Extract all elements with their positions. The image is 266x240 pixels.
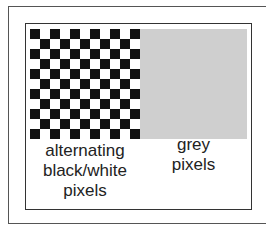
white-pixel xyxy=(70,79,80,89)
white-pixel xyxy=(80,29,90,39)
white-pixel xyxy=(40,69,50,79)
white-pixel xyxy=(120,89,130,99)
black-pixel xyxy=(40,119,50,129)
black-pixel xyxy=(90,129,100,139)
white-pixel xyxy=(100,89,110,99)
white-pixel xyxy=(130,119,140,129)
black-pixel xyxy=(30,49,40,59)
black-pixel xyxy=(50,69,60,79)
black-pixel xyxy=(130,89,140,99)
white-pixel xyxy=(50,119,60,129)
black-pixel xyxy=(30,109,40,119)
white-pixel xyxy=(80,129,90,139)
white-pixel xyxy=(110,39,120,49)
black-pixel xyxy=(90,49,100,59)
white-pixel xyxy=(100,29,110,39)
white-pixel xyxy=(40,29,50,39)
white-pixel xyxy=(60,109,70,119)
black-pixel xyxy=(80,39,90,49)
black-pixel xyxy=(80,119,90,129)
black-pixel xyxy=(30,129,40,139)
black-pixel xyxy=(100,99,110,109)
white-pixel xyxy=(110,79,120,89)
black-pixel xyxy=(130,49,140,59)
black-pixel xyxy=(90,89,100,99)
black-pixel xyxy=(70,69,80,79)
black-pixel xyxy=(40,99,50,109)
checkerboard-label-line-1: alternating xyxy=(30,141,140,161)
white-pixel xyxy=(100,69,110,79)
black-pixel xyxy=(130,109,140,119)
black-pixel xyxy=(60,39,70,49)
white-pixel xyxy=(40,109,50,119)
grey-panel-label-line-1: grey xyxy=(140,135,247,155)
white-pixel xyxy=(100,49,110,59)
grey-panel-label: grey pixels xyxy=(140,135,247,175)
grey-panel-label-line-2: pixels xyxy=(140,155,247,175)
white-pixel xyxy=(120,49,130,59)
black-pixel xyxy=(120,59,130,69)
black-pixel xyxy=(40,39,50,49)
black-pixel xyxy=(80,79,90,89)
white-pixel xyxy=(110,119,120,129)
black-pixel xyxy=(100,39,110,49)
black-pixel xyxy=(110,89,120,99)
black-pixel xyxy=(130,29,140,39)
white-pixel xyxy=(30,59,40,69)
black-pixel xyxy=(120,79,130,89)
black-pixel xyxy=(100,119,110,129)
black-pixel xyxy=(90,109,100,119)
white-pixel xyxy=(60,129,70,139)
white-pixel xyxy=(70,59,80,69)
grey-pixels-panel xyxy=(140,29,247,139)
black-pixel xyxy=(120,39,130,49)
white-pixel xyxy=(120,129,130,139)
black-pixel xyxy=(120,99,130,109)
white-pixel xyxy=(110,59,120,69)
white-pixel xyxy=(70,99,80,109)
black-pixel xyxy=(100,59,110,69)
black-pixel xyxy=(60,119,70,129)
white-pixel xyxy=(80,49,90,59)
black-pixel xyxy=(120,119,130,129)
white-pixel xyxy=(90,119,100,129)
white-pixel xyxy=(120,69,130,79)
black-pixel xyxy=(40,59,50,69)
white-pixel xyxy=(50,39,60,49)
white-pixel xyxy=(40,49,50,59)
white-pixel xyxy=(70,119,80,129)
white-pixel xyxy=(50,59,60,69)
black-pixel xyxy=(110,69,120,79)
white-pixel xyxy=(30,39,40,49)
black-pixel xyxy=(70,89,80,99)
white-pixel xyxy=(80,69,90,79)
white-pixel xyxy=(50,79,60,89)
checkerboard-label-line-3: pixels xyxy=(30,181,140,201)
black-pixel xyxy=(110,29,120,39)
white-pixel xyxy=(80,89,90,99)
white-pixel xyxy=(60,69,70,79)
checkerboard-pattern xyxy=(30,29,140,139)
white-pixel xyxy=(100,109,110,119)
black-pixel xyxy=(130,129,140,139)
checkerboard-label-line-2: black/white xyxy=(30,161,140,181)
black-pixel xyxy=(50,29,60,39)
white-pixel xyxy=(30,119,40,129)
black-pixel xyxy=(50,89,60,99)
white-pixel xyxy=(90,79,100,89)
white-pixel xyxy=(30,79,40,89)
white-pixel xyxy=(80,109,90,119)
black-pixel xyxy=(70,109,80,119)
checkerboard-label: alternating black/white pixels xyxy=(30,141,140,201)
black-pixel xyxy=(110,109,120,119)
white-pixel xyxy=(60,89,70,99)
black-pixel xyxy=(60,99,70,109)
black-pixel xyxy=(100,79,110,89)
white-pixel xyxy=(130,79,140,89)
white-pixel xyxy=(40,129,50,139)
black-pixel xyxy=(90,29,100,39)
white-pixel xyxy=(90,99,100,109)
white-pixel xyxy=(120,109,130,119)
black-pixel xyxy=(50,49,60,59)
white-pixel xyxy=(110,99,120,109)
